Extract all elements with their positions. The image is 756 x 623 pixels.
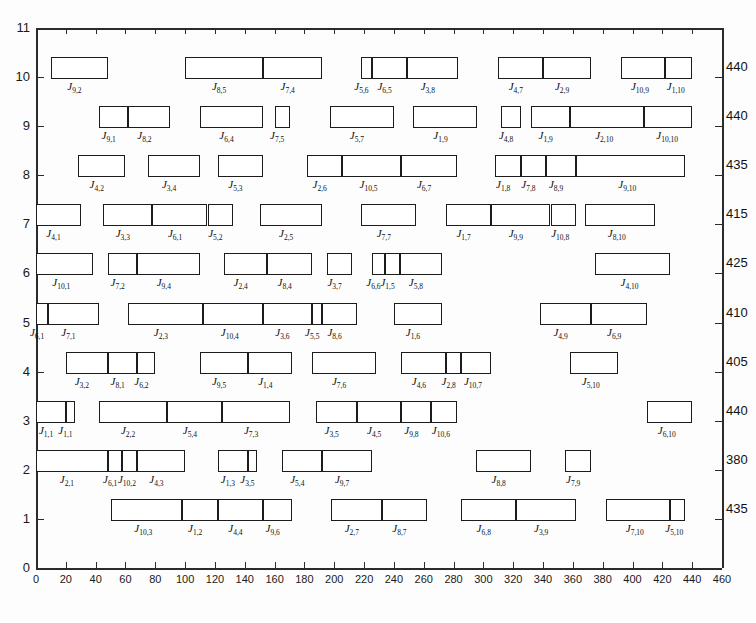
task-bar[interactable] — [394, 303, 442, 325]
task-bar[interactable] — [361, 204, 416, 226]
task-bar[interactable] — [111, 499, 183, 521]
task-bar[interactable] — [218, 155, 263, 177]
task-bar[interactable] — [372, 57, 408, 79]
task-bar[interactable] — [595, 253, 670, 275]
task-bar[interactable] — [167, 401, 222, 423]
task-bar[interactable] — [108, 352, 138, 374]
task-bar[interactable] — [51, 57, 108, 79]
task-bar[interactable] — [401, 401, 431, 423]
task-bar[interactable] — [99, 401, 168, 423]
task-bar[interactable] — [128, 106, 170, 128]
task-bar[interactable] — [108, 450, 123, 472]
task-bar[interactable] — [322, 450, 371, 472]
task-bar[interactable] — [461, 499, 516, 521]
task-bar[interactable] — [665, 57, 692, 79]
task-bar[interactable] — [385, 253, 400, 275]
task-bar[interactable] — [551, 204, 576, 226]
task-bar[interactable] — [591, 303, 648, 325]
task-bar[interactable] — [152, 204, 207, 226]
task-bar[interactable] — [546, 155, 576, 177]
task-bar[interactable] — [498, 57, 543, 79]
task-bar[interactable] — [218, 499, 263, 521]
task-bar[interactable] — [200, 352, 248, 374]
task-bar[interactable] — [476, 450, 531, 472]
task-bar[interactable] — [606, 499, 670, 521]
task-bar[interactable] — [570, 352, 618, 374]
task-bar[interactable] — [491, 204, 551, 226]
task-bar[interactable] — [224, 253, 267, 275]
task-bar[interactable] — [330, 106, 394, 128]
task-bar[interactable] — [647, 401, 692, 423]
task-bar[interactable] — [108, 253, 138, 275]
task-bar[interactable] — [382, 499, 427, 521]
task-bar[interactable] — [501, 106, 520, 128]
task-bar[interactable] — [36, 253, 93, 275]
task-bar[interactable] — [137, 253, 200, 275]
task-bar[interactable] — [275, 106, 290, 128]
task-bar[interactable] — [66, 352, 108, 374]
task-bar[interactable] — [282, 450, 322, 472]
task-bar[interactable] — [322, 303, 356, 325]
task-bar[interactable] — [621, 57, 666, 79]
task-bar[interactable] — [36, 204, 81, 226]
task-bar[interactable] — [203, 303, 263, 325]
task-bar[interactable] — [495, 155, 520, 177]
task-bar[interactable] — [267, 253, 312, 275]
task-bar[interactable] — [357, 401, 402, 423]
task-bar[interactable] — [103, 204, 152, 226]
task-bar[interactable] — [372, 253, 385, 275]
task-bar[interactable] — [260, 204, 323, 226]
task-bar[interactable] — [36, 303, 48, 325]
task-bar[interactable] — [316, 401, 356, 423]
task-bar[interactable] — [670, 499, 685, 521]
task-bar[interactable] — [331, 499, 382, 521]
task-bar[interactable] — [148, 155, 200, 177]
task-bar[interactable] — [431, 401, 456, 423]
task-bar[interactable] — [531, 106, 570, 128]
task-bar[interactable] — [128, 303, 203, 325]
task-bar[interactable] — [185, 57, 263, 79]
task-bar[interactable] — [248, 352, 293, 374]
task-bar[interactable] — [263, 57, 323, 79]
task-bar[interactable] — [407, 57, 458, 79]
task-bar[interactable] — [585, 204, 655, 226]
task-bar[interactable] — [516, 499, 576, 521]
task-bar[interactable] — [400, 253, 442, 275]
task-bar[interactable] — [263, 303, 312, 325]
task-bar[interactable] — [413, 106, 477, 128]
task-bar[interactable] — [222, 401, 289, 423]
task-bar[interactable] — [36, 450, 108, 472]
task-bar[interactable] — [446, 204, 491, 226]
task-bar[interactable] — [565, 450, 590, 472]
task-bar[interactable] — [182, 499, 218, 521]
task-bar[interactable] — [137, 450, 185, 472]
task-bar[interactable] — [218, 450, 248, 472]
task-bar[interactable] — [208, 204, 233, 226]
task-bar[interactable] — [521, 155, 546, 177]
task-bar[interactable] — [137, 352, 155, 374]
task-bar[interactable] — [99, 106, 129, 128]
task-bar[interactable] — [248, 450, 257, 472]
task-bar[interactable] — [570, 106, 645, 128]
task-bar[interactable] — [342, 155, 402, 177]
task-bar[interactable] — [461, 352, 491, 374]
task-bar[interactable] — [644, 106, 692, 128]
task-bar[interactable] — [307, 155, 341, 177]
task-bar[interactable] — [401, 352, 446, 374]
task-bar[interactable] — [263, 499, 293, 521]
task-bar[interactable] — [361, 57, 371, 79]
task-bar[interactable] — [66, 401, 75, 423]
task-bar[interactable] — [327, 253, 352, 275]
task-bar[interactable] — [540, 303, 591, 325]
task-bar[interactable] — [48, 303, 99, 325]
task-bar[interactable] — [446, 352, 461, 374]
task-bar[interactable] — [200, 106, 263, 128]
task-bar[interactable] — [312, 303, 322, 325]
task-bar[interactable] — [36, 401, 66, 423]
task-bar[interactable] — [576, 155, 685, 177]
task-bar[interactable] — [401, 155, 456, 177]
task-bar[interactable] — [122, 450, 137, 472]
task-bar[interactable] — [543, 57, 591, 79]
task-bar[interactable] — [312, 352, 376, 374]
task-bar[interactable] — [78, 155, 126, 177]
